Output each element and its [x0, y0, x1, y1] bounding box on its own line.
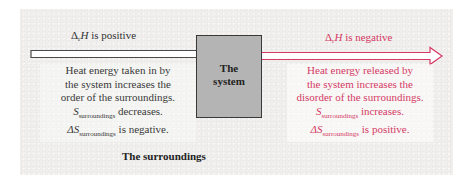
explanation-line: the system increases the — [40, 78, 196, 92]
entropy-change-line: Ssurroundings increases. — [287, 105, 433, 124]
delta-s-symbol: ΔS — [311, 123, 323, 135]
explanation-line: Heat energy taken in by — [40, 64, 196, 78]
delta-h-positive-label: ΔrH is positive — [71, 29, 136, 43]
explanation-line: Heat energy released by — [287, 64, 433, 78]
surroundings-label: The surroundings — [122, 150, 206, 162]
heat-in-arrow-icon — [30, 44, 218, 66]
exothermic-explanation: Heat energy released by the system incre… — [287, 64, 433, 142]
delta-s-text: is positive. — [359, 123, 409, 135]
entropy-change-line: Ssurroundings decreases. — [40, 105, 196, 124]
explanation-line: the system increases the — [287, 78, 433, 92]
entropy-change-text: decreases. — [115, 105, 163, 117]
delta-s-symbol: ΔS — [67, 123, 79, 135]
delta-s-text: is negative. — [116, 123, 169, 135]
entropy-subscript: surroundings — [322, 112, 359, 120]
system-box: The system — [196, 35, 262, 118]
entropy-change-text: increases. — [358, 105, 404, 117]
delta-s-subscript: surroundings — [79, 130, 116, 138]
delta-s-line: ΔSsurroundings is negative. — [40, 123, 196, 142]
explanation-line: order of the surroundings. — [40, 91, 196, 105]
delta-h-text: is positive — [88, 29, 136, 41]
entropy-subscript: surroundings — [79, 112, 116, 120]
delta-h-negative-label: ΔrH is negative — [325, 31, 392, 45]
delta-s-subscript: surroundings — [322, 130, 359, 138]
system-label: The system — [197, 62, 261, 88]
endothermic-explanation: Heat energy taken in by the system incre… — [40, 64, 196, 142]
explanation-line: disorder of the surroundings. — [287, 91, 433, 105]
delta-h-text: is negative — [342, 31, 392, 43]
delta-s-line: ΔSsurroundings is positive. — [287, 123, 433, 142]
